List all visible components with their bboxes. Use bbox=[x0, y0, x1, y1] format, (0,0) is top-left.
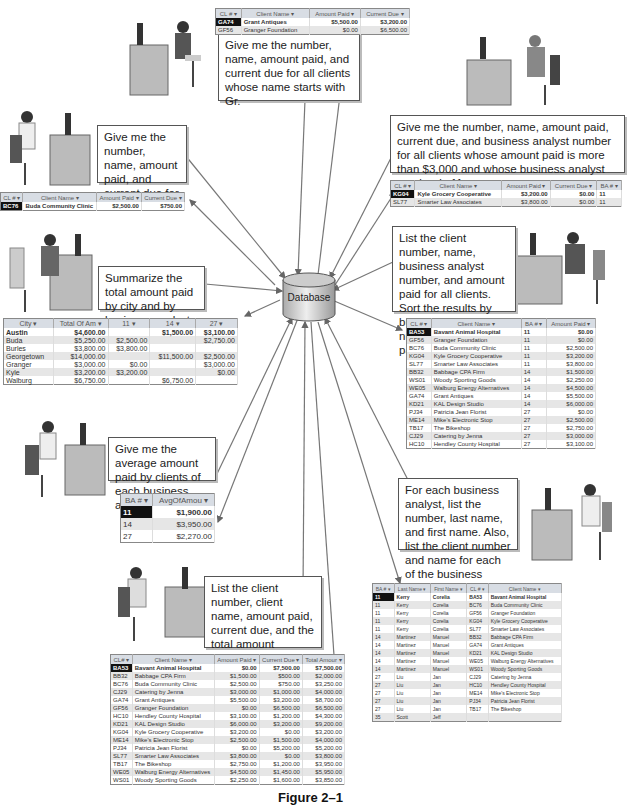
column-header[interactable]: First Name ▾ bbox=[430, 584, 467, 594]
table-row[interactable]: KD21KAL Design Studio$6,000.00$3,200.00$… bbox=[111, 720, 345, 728]
table-row[interactable]: Walburg$6,750.00$6,750.00 bbox=[4, 376, 238, 385]
column-header[interactable]: AvgOfAmou ▾ bbox=[153, 494, 215, 507]
query-box-sorted-list: List the client number, name, business a… bbox=[392, 226, 516, 312]
table-row[interactable]: Kyle$3,200.00$3,200.00$0.00 bbox=[4, 368, 238, 376]
table-row[interactable]: BC76Buda Community Clinic$2,500.00$750.0… bbox=[111, 680, 345, 688]
column-header[interactable]: Client Name ▾ bbox=[415, 181, 502, 191]
table-row[interactable]: Buda$5,250.00$2,500.00$2,750.00 bbox=[4, 336, 238, 344]
column-header[interactable]: Current Due ▾ bbox=[360, 9, 409, 19]
table-row[interactable]: 27LiuJanPJ34Patricia Jean Florist bbox=[373, 697, 562, 705]
table-row[interactable]: ME14Mike's Electronic Stop$2,500.00$1,50… bbox=[111, 736, 345, 744]
column-header[interactable]: Total Of Am ▾ bbox=[53, 319, 108, 329]
column-header[interactable]: Amount Paid ▾ bbox=[97, 193, 142, 203]
column-header[interactable]: City ▾ bbox=[4, 319, 54, 329]
table-row[interactable]: KG04Kyle Grocery Cooperative11$3,200.00 bbox=[407, 352, 596, 360]
table-row[interactable]: 14MartinezManuelWS01Woody Sporting Goods bbox=[373, 665, 562, 673]
table-row[interactable]: 35ScottJeff bbox=[373, 713, 562, 722]
table-row[interactable]: 11KerryCoreliaGF56Granger Foundation bbox=[373, 609, 562, 617]
table-row[interactable]: WS01Woody Sporting Goods$2,250.00$1,600.… bbox=[111, 776, 345, 785]
table-row[interactable]: 14$3,950.00 bbox=[121, 518, 215, 530]
table-row[interactable]: 11KerryCoreliaBA53Bavant Animal Hospital bbox=[373, 593, 562, 601]
table-row[interactable]: BB32Babbage CPA Firm$1,500.00$500.00$2,0… bbox=[111, 672, 345, 680]
table-row[interactable]: 11KerryCoreliaKG04Kyle Grocery Cooperati… bbox=[373, 617, 562, 625]
table-row[interactable]: TB17The Bikeshop27$2,750.00 bbox=[407, 424, 596, 432]
table-row[interactable]: SL77Smarter Law Associates$3,800.00$0.00… bbox=[111, 752, 345, 760]
result-table-amount-over-3000: CL # ▾ Client Name ▾ Amount Paid ▾ Curre… bbox=[390, 180, 622, 207]
table-row[interactable]: GF56Granger Foundation11$0.00 bbox=[407, 336, 596, 344]
column-header[interactable]: Client Name ▾ bbox=[488, 584, 561, 594]
column-header[interactable]: BA # ▾ bbox=[373, 584, 395, 594]
column-header[interactable]: Last Name ▾ bbox=[394, 584, 430, 594]
table-row[interactable]: 11$1,900.00 bbox=[121, 506, 215, 518]
column-header[interactable]: Total Amour ▾ bbox=[302, 655, 344, 665]
table-row[interactable]: WE05Walburg Energy Alternatives14$4,500.… bbox=[407, 384, 596, 392]
column-header[interactable]: BA # ▾ bbox=[521, 319, 546, 329]
column-header[interactable]: 11 ▾ bbox=[108, 319, 150, 329]
table-row[interactable]: CJ29Catering by Jenna$3,000.00$1,000.00$… bbox=[111, 688, 345, 696]
table-row[interactable]: 14MartinezManuelBB32Babbage CPA Firm bbox=[373, 633, 562, 641]
table-row[interactable]: WE05Walburg Energy Alternatives$4,500.00… bbox=[111, 768, 345, 776]
table-row[interactable]: GA74Grant Antiques14$5,500.00 bbox=[407, 392, 596, 400]
column-header[interactable]: Client Name ▾ bbox=[132, 655, 214, 665]
table-row[interactable]: WS01Woody Sporting Goods14$2,250.00 bbox=[407, 376, 596, 384]
table-row[interactable]: GF56Granger Foundation$0.00$6,500.00 bbox=[216, 26, 410, 35]
person-at-desk-icon bbox=[5, 105, 95, 190]
table-row[interactable]: 27LiuJanME14Mike's Electronic Stop bbox=[373, 689, 562, 697]
table-row[interactable]: ME14Mike's Electronic Stop27$2,500.00 bbox=[407, 416, 596, 424]
table-row[interactable]: Georgetown$14,000.00$11,500.00$2,500.00 bbox=[4, 352, 238, 360]
figure-caption: Figure 2–1 bbox=[278, 790, 343, 805]
column-header[interactable]: Current Due ▾ bbox=[259, 655, 302, 665]
table-row[interactable]: GA74Grant Antiques$5,500.00$3,200.00 bbox=[216, 18, 410, 26]
table-row[interactable]: Austin$4,600.00$1,500.00$3,100.00 bbox=[4, 328, 238, 336]
column-header[interactable]: CL # ▾ bbox=[1, 193, 23, 203]
person-at-desk-icon bbox=[515, 228, 615, 308]
table-row[interactable]: SL77Smarter Law Associates11$3,800.00 bbox=[407, 360, 596, 368]
column-header[interactable]: CL# ▾ bbox=[111, 655, 133, 665]
table-row[interactable]: BB32Babbage CPA Firm14$1,500.00 bbox=[407, 368, 596, 376]
table-row[interactable]: 11KerryCoreliaSL77Smarter Law Associates bbox=[373, 625, 562, 633]
column-header[interactable]: Amount Paid ▾ bbox=[309, 9, 360, 19]
table-row[interactable]: 14MartinezManuelKD21KAL Design Studio bbox=[373, 649, 562, 657]
table-row[interactable]: KG04Kyle Grocery Cooperative$3,200.00$0.… bbox=[391, 190, 622, 198]
table-row[interactable]: 14MartinezManuelGA74Grant Antiques bbox=[373, 641, 562, 649]
table-row[interactable]: KD21KAL Design Studio14$6,000.00 bbox=[407, 400, 596, 408]
table-row[interactable]: 27LiuJanCJ29Catering by Jenna bbox=[373, 673, 562, 681]
table-row[interactable]: Burles$3,800.00$3,800.00 bbox=[4, 344, 238, 352]
table-row[interactable]: KG04Kyle Grocery Cooperative$3,200.00$0.… bbox=[111, 728, 345, 736]
column-header[interactable]: CL # ▾ bbox=[216, 9, 242, 19]
table-row[interactable]: BC76Buda Community Clinic$2,500.00$750.0… bbox=[1, 202, 185, 211]
column-header[interactable]: CL # ▾ bbox=[407, 319, 432, 329]
column-header[interactable]: Amount Paid ▾ bbox=[546, 319, 595, 329]
column-header[interactable]: Current Due ▾ bbox=[141, 193, 184, 203]
table-row[interactable]: Granger$3,000.00$0.00$3,000.00 bbox=[4, 360, 238, 368]
column-header[interactable]: 14 ▾ bbox=[150, 319, 196, 329]
column-header[interactable]: Amount Paid ▾ bbox=[214, 655, 259, 665]
table-row[interactable]: HC10Hendley County Hospital27$3,100.00 bbox=[407, 440, 596, 449]
table-row[interactable]: HC10Hendley County Hospital$3,100.00$1,2… bbox=[111, 712, 345, 720]
table-row[interactable]: TB17The Bikeshop$2,750.00$1,200.00$3,950… bbox=[111, 760, 345, 768]
table-row[interactable]: BA53Bavant Animal Hospital$0.00$7,500.00… bbox=[111, 664, 345, 672]
column-header[interactable]: Client Name ▾ bbox=[241, 9, 309, 19]
column-header[interactable]: CL # ▾ bbox=[391, 181, 415, 191]
column-header[interactable]: Client Name ▾ bbox=[431, 319, 521, 329]
column-header[interactable]: BA # ▾ bbox=[121, 494, 153, 507]
table-row[interactable]: 27$2,270.00 bbox=[121, 530, 215, 543]
table-row[interactable]: GA74Grant Antiques$5,500.00$3,200.00$8,7… bbox=[111, 696, 345, 704]
table-row[interactable]: 27LiuJanTB17The Bikeshop bbox=[373, 705, 562, 713]
table-row[interactable]: PJ34Patricia Jean Florist$0.00$5,200.00$… bbox=[111, 744, 345, 752]
table-row[interactable]: SL77Smarter Law Associates$3,800.00$0.00… bbox=[391, 198, 622, 207]
column-header[interactable]: Amount Paid ▾ bbox=[502, 181, 551, 191]
column-header[interactable]: CL # ▾ bbox=[467, 584, 488, 594]
table-row[interactable]: CJ29Catering by Jenna27$3,000.00 bbox=[407, 432, 596, 440]
column-header[interactable]: Client Name ▾ bbox=[23, 193, 97, 203]
table-row[interactable]: PJ34Patricia Jean Florist27$0.00 bbox=[407, 408, 596, 416]
table-row[interactable]: BA53Bavant Animal Hospital11$0.00 bbox=[407, 328, 596, 336]
column-header[interactable]: BA # ▾ bbox=[597, 181, 622, 191]
table-row[interactable]: BC76Buda Community Clinic11$2,500.00 bbox=[407, 344, 596, 352]
table-row[interactable]: 27LiuJanHC10Hendley County Hospital bbox=[373, 681, 562, 689]
table-row[interactable]: 14MartinezManuelWE05Walburg Energy Alter… bbox=[373, 657, 562, 665]
table-row[interactable]: GF56Granger Foundation$0.00$6,500.00$6,5… bbox=[111, 704, 345, 712]
column-header[interactable]: 27 ▾ bbox=[196, 319, 238, 329]
column-header[interactable]: Current Due ▾ bbox=[550, 181, 597, 191]
table-row[interactable]: 11KerryCoreliaBC76Buda Community Clinic bbox=[373, 601, 562, 609]
